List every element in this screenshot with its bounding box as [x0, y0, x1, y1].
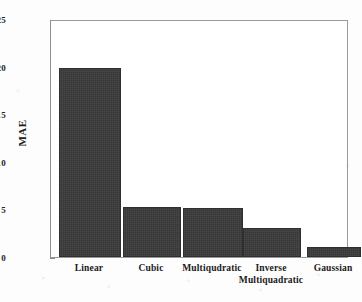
y-axis-tick-label: 25 — [0, 15, 6, 25]
x-axis-tick-label: Gaussian — [314, 263, 353, 275]
plot-frame — [50, 20, 348, 258]
bar — [307, 247, 361, 257]
bar — [123, 207, 181, 257]
x-axis-tick-label: Multiqudratic — [182, 263, 241, 275]
y-axis-tick-label: 0 — [0, 253, 6, 263]
y-axis-title: MAE — [16, 120, 28, 147]
y-axis-tick-label: 5 — [0, 205, 6, 215]
y-axis-tick-mark — [50, 258, 55, 259]
y-axis-tick-label: 10 — [0, 158, 6, 168]
x-axis-tick-label: Linear — [75, 263, 103, 275]
x-axis-tick-label: Inverse Multiquadratic — [239, 263, 303, 286]
bar — [183, 208, 243, 257]
y-axis-tick-label: 20 — [0, 63, 6, 73]
bar — [243, 228, 301, 257]
y-axis-tick-label: 15 — [0, 110, 6, 120]
bar — [59, 68, 121, 257]
bar-chart-figure: MAE 2520151050 LinearCubicMultiqudraticI… — [0, 0, 362, 302]
x-axis-tick-label: Cubic — [138, 263, 163, 275]
plot-area — [51, 21, 347, 257]
